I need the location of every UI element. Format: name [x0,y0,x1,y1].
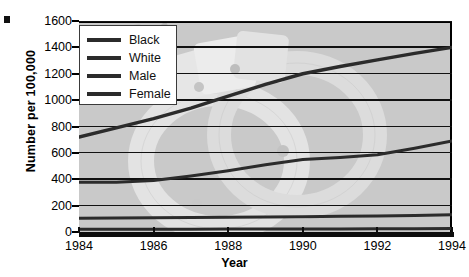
corner-marker [4,16,10,23]
y-tick-label: 0 [28,226,72,239]
legend-item-male: Male [80,67,176,85]
x-tick-label: 1986 [124,239,184,253]
x-tick-label: 1988 [198,239,258,253]
x-tick-mark [153,227,155,233]
legend-item-white: White [80,49,176,67]
legend-label: White [129,52,161,65]
x-tick-mark [78,227,80,233]
legend-swatch-icon [87,56,121,60]
x-axis-bar [79,232,454,237]
series-line-female [79,229,452,230]
legend-label: Male [129,70,156,83]
x-tick-label: 1984 [49,239,109,253]
legend-label: Black [129,34,160,47]
y-tick-mark [72,205,79,207]
legend-swatch-icon [87,38,121,42]
legend-item-female: Female [80,85,176,103]
x-tick-label: 1992 [347,239,407,253]
chart-legend: BlackWhiteMaleFemale [79,25,177,105]
y-tick-label: 400 [28,173,72,186]
x-tick-mark [451,227,453,233]
chart-figure: Number per 100,000 020040060080010001200… [0,0,469,277]
y-tick-label: 800 [28,121,72,134]
y-axis-tick-labels: 02004006008001000120014001600 [26,0,72,277]
y-tick-mark [72,178,79,180]
x-tick-label: 1990 [273,239,333,253]
legend-label: Female [129,88,171,101]
x-tick-mark [376,227,378,233]
y-tick-mark [72,73,79,75]
y-tick-mark [72,152,79,154]
legend-swatch-icon [87,74,121,78]
y-tick-mark [72,20,79,22]
y-tick-label: 1200 [28,68,72,81]
y-tick-mark [72,46,79,48]
series-line-male [79,141,452,182]
legend-swatch-icon [87,92,121,96]
x-tick-mark [302,227,304,233]
series-line-white [79,215,452,218]
y-tick-label: 200 [28,200,72,213]
y-tick-label: 600 [28,147,72,160]
legend-item-black: Black [80,31,176,49]
x-tick-mark [227,227,229,233]
y-tick-label: 1000 [28,94,72,107]
x-tick-label: 1994 [422,239,469,253]
y-tick-mark [72,126,79,128]
x-axis-label: Year [0,256,469,270]
y-tick-label: 1600 [28,15,72,28]
y-tick-label: 1400 [28,41,72,54]
y-tick-mark [72,99,79,101]
